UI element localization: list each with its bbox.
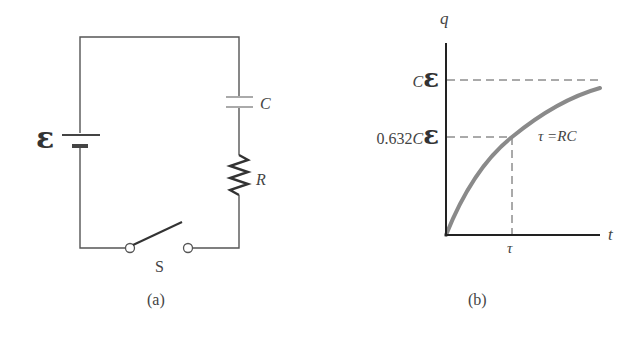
charge-curve	[446, 88, 600, 235]
wire-bottom-left	[80, 146, 126, 248]
rc-circuit-figure: ε C R S (a) q t Cε	[0, 0, 632, 339]
max-charge-label: Cε	[413, 63, 439, 93]
tau-tick-label: τ	[507, 240, 513, 256]
caption-a: (a)	[147, 291, 165, 309]
battery-icon	[62, 135, 100, 146]
switch-icon	[126, 222, 193, 253]
circuit-diagram: ε C R S (a)	[36, 37, 271, 309]
resistor-icon	[230, 155, 248, 195]
y-axis-label: q	[440, 9, 449, 28]
wire-top	[80, 37, 239, 133]
tau-charge-label: 0.632Cε	[377, 120, 439, 150]
time-constant-annotation: τ =RC	[538, 128, 577, 144]
capacitor-label: C	[260, 95, 271, 112]
x-axis-label: t	[608, 225, 614, 244]
wire-bottom-right	[192, 195, 239, 248]
capacitor-icon	[226, 97, 253, 107]
switch-label: S	[155, 258, 164, 275]
emf-label: ε	[36, 120, 54, 155]
caption-b: (b)	[468, 291, 487, 309]
charge-graph: q t Cε 0.632Cε τ τ =RC (b)	[377, 9, 614, 309]
resistor-label: R	[255, 171, 266, 188]
